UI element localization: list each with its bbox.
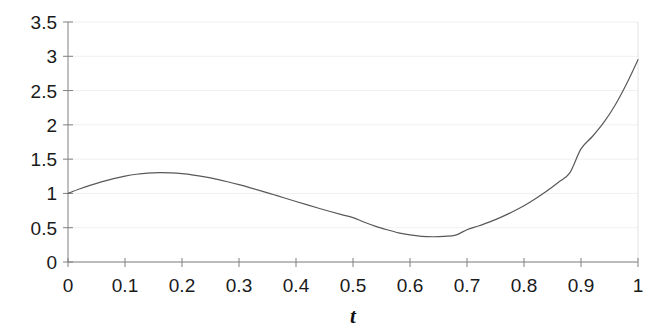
y-axis-tick-label: 0 — [46, 253, 57, 272]
y-axis-tick-label: 2.5 — [31, 81, 57, 100]
x-axis-tick-label: 1 — [633, 276, 644, 295]
y-axis-tick-label: 2 — [46, 115, 57, 134]
x-axis-tick-label: 0.9 — [568, 276, 594, 295]
x-axis-tick-label: 0.4 — [283, 276, 309, 295]
x-axis-tick-label: 0.6 — [397, 276, 423, 295]
x-axis-tick-label: 0.7 — [454, 276, 480, 295]
axis-ticks — [63, 22, 638, 267]
axis-lines — [68, 22, 638, 262]
y-axis-tick-label: 0.5 — [31, 218, 57, 237]
y-axis-tick-label: 1.5 — [31, 150, 57, 169]
chart-plot-area — [0, 0, 662, 330]
x-axis-tick-label: 0.1 — [112, 276, 138, 295]
x-axis-tick-label: 0 — [63, 276, 74, 295]
data-series-curve — [68, 60, 638, 237]
y-axis-tick-label: 3 — [46, 47, 57, 66]
line-chart: 00.511.522.533.5 00.10.20.30.40.50.60.70… — [0, 0, 662, 330]
x-axis-tick-label: 0.3 — [226, 276, 252, 295]
y-axis-tick-label: 1 — [46, 184, 57, 203]
y-axis-tick-label: 3.5 — [31, 13, 57, 32]
series-line — [68, 60, 638, 237]
x-axis-tick-label: 0.5 — [340, 276, 366, 295]
x-axis-tick-label: 0.8 — [511, 276, 537, 295]
grid-lines — [68, 22, 638, 262]
x-axis-tick-label: 0.2 — [169, 276, 195, 295]
x-axis-title: t — [350, 306, 356, 327]
